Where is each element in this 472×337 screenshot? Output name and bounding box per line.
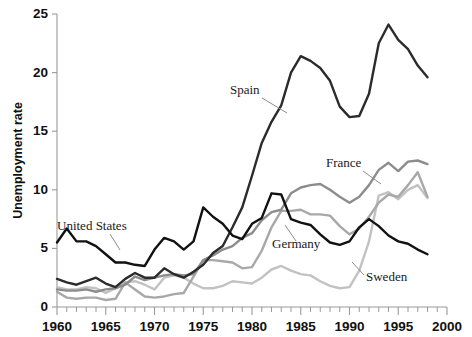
series-annotation-united-states: United States bbox=[57, 218, 127, 233]
y-tick-label: 15 bbox=[33, 123, 49, 138]
x-tick-label: 1960 bbox=[42, 319, 72, 334]
x-tick-label: 1995 bbox=[383, 319, 414, 334]
y-tick-label: 0 bbox=[40, 299, 48, 314]
unemployment-rate-chart: 0510152025196019651970197519801985199019… bbox=[0, 0, 472, 337]
series-annotation-france: France bbox=[326, 155, 362, 170]
series-layer bbox=[57, 25, 428, 300]
y-tick-label: 25 bbox=[33, 6, 49, 21]
y-tick-label: 20 bbox=[33, 65, 48, 80]
x-tick-label: 1990 bbox=[334, 319, 364, 334]
x-tick-label: 1980 bbox=[237, 319, 267, 334]
series-annotation-spain: Spain bbox=[230, 82, 260, 97]
x-tick-label: 1975 bbox=[188, 319, 219, 334]
x-tick-label: 1985 bbox=[286, 319, 317, 334]
annotations-layer: SpainFranceGermanySwedenUnited States bbox=[57, 82, 408, 284]
chart-canvas: 0510152025196019651970197519801985199019… bbox=[0, 0, 472, 337]
x-tick-label: 2000 bbox=[432, 319, 462, 334]
y-tick-label: 5 bbox=[40, 240, 48, 255]
y-axis-title: Unemployment rate bbox=[11, 102, 25, 219]
series-annotation-germany: Germany bbox=[272, 236, 321, 251]
x-tick-label: 1965 bbox=[91, 319, 122, 334]
y-tick-label: 10 bbox=[33, 182, 48, 197]
series-line-spain bbox=[57, 25, 428, 288]
series-annotation-sweden: Sweden bbox=[366, 269, 408, 284]
leader-line-united-states bbox=[110, 234, 120, 250]
x-tick-label: 1970 bbox=[139, 319, 169, 334]
